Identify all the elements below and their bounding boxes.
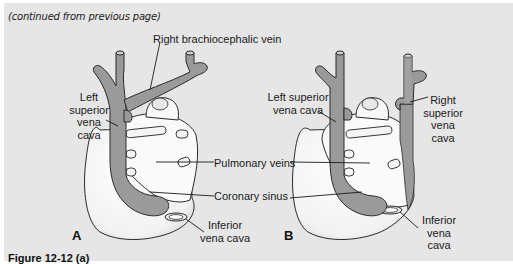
- heart-b: [293, 98, 415, 240]
- label-coronary-sinus: Coronary sinus: [214, 190, 288, 203]
- label-right-brachiocephalic-vein: Right brachiocephalic vein: [153, 33, 281, 46]
- figure-caption: Figure 12-12 (a): [8, 252, 89, 264]
- label-right-svc-b: Right superior vena cava: [418, 94, 468, 144]
- label-inferior-vc-a: Inferior vena cava: [195, 219, 255, 244]
- panel-letter-b: B: [284, 228, 293, 243]
- panel-letter-a: A: [72, 228, 81, 243]
- label-left-svc-b: Left superior vena cava: [260, 91, 336, 116]
- label-pulmonary-veins: Pulmonary veins: [214, 157, 295, 170]
- label-inferior-vc-b: Inferior vena cava: [416, 214, 462, 252]
- label-left-svc-a: Left superior vena cava: [68, 91, 110, 141]
